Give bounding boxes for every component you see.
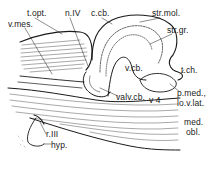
label-ventriculus-mesencephali: v.mes. bbox=[8, 20, 33, 29]
label-valvula-cerebelli: valv.cb. bbox=[116, 93, 145, 102]
label-nervus-iv: n.IV bbox=[65, 9, 81, 18]
label-ventriculus-cerebelli: v.cb. bbox=[125, 64, 143, 73]
label-oblongata: obl. bbox=[186, 128, 200, 137]
lobus-vagi bbox=[140, 73, 176, 92]
label-tela-choroidea: t.ch. bbox=[181, 66, 198, 75]
label-stratum-granulosum: str.gr. bbox=[167, 26, 189, 35]
label-hypophysis: hyp. bbox=[51, 141, 67, 150]
label-tectum-opticum: t.opt. bbox=[27, 9, 47, 18]
label-stratum-moleculare: str.mol. bbox=[152, 9, 180, 18]
label-medulla: med. bbox=[184, 118, 203, 127]
label-radix-iii: r.III bbox=[46, 130, 58, 139]
label-corpus-cerebelli: c.cb. bbox=[91, 9, 109, 18]
ventricle-mes-line bbox=[20, 76, 84, 82]
label-ventricle-4: v 4 bbox=[149, 96, 161, 105]
label-lobus-vagi-lateralis: lo.v.lat. bbox=[177, 99, 204, 108]
label-p-med: p.med., bbox=[177, 89, 206, 98]
